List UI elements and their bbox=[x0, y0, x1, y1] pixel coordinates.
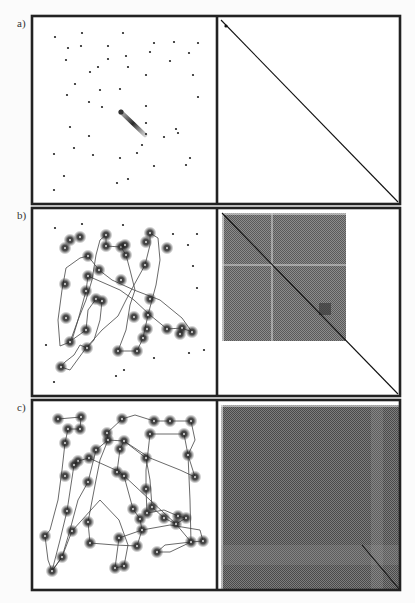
landmark-center bbox=[145, 457, 147, 459]
landmark-center bbox=[147, 314, 149, 316]
landmark-dot bbox=[127, 66, 129, 68]
landmark-center bbox=[66, 510, 68, 512]
landmark-center bbox=[149, 298, 151, 300]
landmark-dot bbox=[53, 189, 55, 191]
panels-group bbox=[32, 16, 400, 590]
landmark-center bbox=[79, 428, 81, 430]
landmark-dot bbox=[88, 135, 90, 137]
matrix-start-marker bbox=[224, 24, 227, 27]
landmark-center bbox=[89, 542, 91, 544]
landmark-center bbox=[105, 245, 107, 247]
landmark-dot bbox=[54, 227, 56, 229]
landmark-center bbox=[65, 317, 67, 319]
landmark-dot bbox=[125, 55, 127, 57]
landmark-center bbox=[79, 236, 81, 238]
panel-c bbox=[32, 400, 400, 590]
landmark-center bbox=[85, 290, 87, 292]
landmark-dot bbox=[173, 41, 175, 43]
landmark-center bbox=[163, 517, 165, 519]
landmark-dot bbox=[69, 126, 71, 128]
landmark-center bbox=[194, 476, 196, 478]
landmark-center bbox=[121, 418, 123, 420]
landmark-center bbox=[118, 537, 120, 539]
panel-b bbox=[32, 208, 400, 396]
landmark-center bbox=[190, 420, 192, 422]
landmark-dot bbox=[81, 223, 83, 225]
landmark-dot bbox=[177, 132, 179, 134]
landmark-dot bbox=[175, 128, 177, 130]
landmark-center bbox=[87, 521, 89, 523]
landmark-dot bbox=[116, 182, 118, 184]
landmark-dot bbox=[92, 154, 94, 156]
landmark-center bbox=[123, 440, 125, 442]
landmark-dot bbox=[115, 375, 117, 377]
landmark-dot bbox=[172, 233, 174, 235]
landmark-dot bbox=[136, 152, 138, 154]
landmark-center bbox=[85, 329, 87, 331]
landmark-center bbox=[179, 333, 181, 335]
landmark-center bbox=[51, 570, 53, 572]
landmark-center bbox=[136, 350, 138, 352]
landmark-center bbox=[149, 232, 151, 234]
landmark-dot bbox=[107, 58, 109, 60]
landmark-dot bbox=[163, 136, 165, 138]
landmark-dot bbox=[169, 60, 171, 62]
landmark-center bbox=[64, 247, 66, 249]
landmark-center bbox=[101, 300, 103, 302]
landmark-center bbox=[177, 515, 179, 517]
landmark-center bbox=[67, 428, 69, 430]
landmark-center bbox=[87, 481, 89, 483]
landmark-dot bbox=[101, 106, 103, 108]
landmark-center bbox=[142, 337, 144, 339]
landmark-dot bbox=[122, 224, 124, 226]
landmark-center bbox=[146, 512, 148, 514]
landmark-dot bbox=[63, 175, 65, 177]
landmark-dot bbox=[192, 265, 194, 267]
landmark-dot bbox=[123, 369, 125, 371]
landmark-center bbox=[125, 254, 127, 256]
landmark-center bbox=[124, 244, 126, 246]
landmark-center bbox=[153, 420, 155, 422]
landmark-dot bbox=[66, 94, 68, 96]
matrix-loop-block bbox=[319, 303, 331, 315]
landmark-center bbox=[61, 556, 63, 558]
landmark-dot bbox=[119, 88, 121, 90]
landmark-dot bbox=[53, 381, 55, 383]
landmark-dot bbox=[53, 153, 55, 155]
landmark-center bbox=[175, 523, 177, 525]
landmark-center bbox=[95, 449, 97, 451]
landmark-center bbox=[105, 234, 107, 236]
landmark-dot bbox=[122, 32, 124, 34]
landmark-dot bbox=[145, 122, 147, 124]
landmark-center bbox=[120, 279, 122, 281]
landmark-dot bbox=[99, 89, 101, 91]
landmark-dot bbox=[127, 178, 129, 180]
landmark-center bbox=[145, 488, 147, 490]
landmark-dot bbox=[107, 45, 109, 47]
landmark-dot bbox=[119, 157, 121, 159]
landmark-center bbox=[166, 328, 168, 330]
landmark-center bbox=[64, 283, 66, 285]
landmark-center bbox=[139, 518, 141, 520]
landmark-dot bbox=[189, 157, 191, 159]
landmark-center bbox=[71, 530, 73, 532]
landmark-dot bbox=[203, 349, 205, 351]
landmark-center bbox=[156, 551, 158, 553]
matrix-band-v bbox=[371, 405, 383, 589]
landmark-center bbox=[116, 471, 118, 473]
landmark-center bbox=[183, 433, 185, 435]
landmark-dot bbox=[88, 101, 90, 103]
landmark-center bbox=[87, 275, 89, 277]
landmark-dot bbox=[188, 352, 190, 354]
landmark-center bbox=[119, 448, 121, 450]
landmark-center bbox=[132, 508, 134, 510]
landmark-dot bbox=[153, 42, 155, 44]
landmark-dot bbox=[80, 45, 82, 47]
landmark-center bbox=[187, 454, 189, 456]
landmark-center bbox=[87, 255, 89, 257]
landmark-center bbox=[57, 418, 59, 420]
landmark-dot bbox=[197, 96, 199, 98]
landmark-dot bbox=[192, 74, 194, 76]
landmark-center bbox=[202, 540, 204, 542]
landmark-center bbox=[60, 366, 62, 368]
